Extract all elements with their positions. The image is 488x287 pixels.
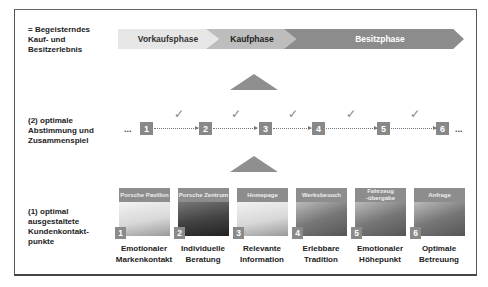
- touchpoint-card-3: Homepage 3: [237, 188, 288, 236]
- check-icon: ✓: [174, 107, 184, 121]
- check-icon: ✓: [231, 107, 241, 121]
- step-4: 4: [312, 122, 325, 135]
- step-6: 6: [436, 122, 449, 135]
- arrow-3-4: [273, 128, 311, 129]
- check-icon: ✓: [410, 107, 420, 121]
- arrow-4-5: [326, 128, 377, 129]
- row-label-experience: = Begeisterndes Kauf- und Besitzerlebnis: [28, 25, 90, 55]
- check-icon: ✓: [346, 107, 356, 121]
- photo-werksbesuch: [296, 202, 347, 236]
- step-3: 3: [259, 122, 272, 135]
- label-line: Abstimmung und: [28, 126, 94, 136]
- card-number: 5: [351, 227, 362, 239]
- card-number: 1: [115, 227, 126, 239]
- arrow-5-6: [391, 128, 436, 129]
- arrow-2-3: [213, 128, 257, 129]
- step-5: 5: [377, 122, 390, 135]
- row-label-touchpoints: (1) optimal ausgestaltete Kundenkontakt-…: [28, 207, 89, 247]
- touchpoint-card-4: Werksbesuch 4: [296, 188, 347, 236]
- label-line: ausgestaltete: [28, 217, 89, 227]
- phase-label: Vorkaufsphase: [138, 34, 198, 44]
- photo-zentrum: [178, 202, 229, 236]
- card-title: Werksbesuch: [296, 188, 347, 202]
- phase-kauf: Kaufphase: [206, 29, 298, 49]
- label-line: Zusammenspiel: [28, 136, 94, 146]
- phase-label: Besitzphase: [343, 34, 405, 44]
- label-line: = Begeisterndes: [28, 25, 90, 35]
- photo-anfrage: [414, 202, 465, 236]
- card-number: 4: [292, 227, 303, 239]
- ellipsis-leading: ...: [124, 124, 132, 134]
- row-label-coordination: (2) optimale Abstimmung und Zusammenspie…: [28, 116, 94, 146]
- caption-line: Optimale: [404, 243, 474, 254]
- card-title: Fahrzeug -übergabe: [355, 188, 406, 202]
- touchpoint-card-1: Porsche Pavillon 1: [119, 188, 170, 236]
- card-number: 6: [410, 227, 421, 239]
- phase-besitz: Besitzphase: [284, 29, 464, 49]
- card-number: 2: [174, 227, 185, 239]
- phase-vorkauf: Vorkaufsphase: [118, 29, 218, 49]
- caption-line: Betreuung: [404, 254, 474, 265]
- label-line: Besitzerlebnis: [28, 45, 90, 55]
- label-line: (2) optimale: [28, 116, 94, 126]
- card-title: Anfrage: [414, 188, 465, 202]
- photo-pavilion: [119, 202, 170, 236]
- card-title: Porsche Pavillon: [119, 188, 170, 202]
- phase-label: Kaufphase: [230, 34, 273, 44]
- label-line: punkte: [28, 237, 89, 247]
- arrow-1-2: [154, 128, 198, 129]
- caption-6: Optimale Betreuung: [404, 243, 474, 265]
- card-title: Porsche Zentrum: [178, 188, 229, 202]
- label-line: (1) optimal: [28, 207, 89, 217]
- check-icon: ✓: [288, 107, 298, 121]
- card-number: 3: [233, 227, 244, 239]
- step-2: 2: [199, 122, 212, 135]
- card-title: Homepage: [237, 188, 288, 202]
- label-line: Kauf- und: [28, 35, 90, 45]
- photo-homepage: [237, 202, 288, 236]
- photo-fahrzeuguebergabe: [355, 202, 406, 236]
- step-1: 1: [140, 122, 153, 135]
- ellipsis-trailing: ...: [455, 124, 463, 134]
- touchpoint-card-2: Porsche Zentrum 2: [178, 188, 229, 236]
- label-line: Kundenkontakt-: [28, 227, 89, 237]
- touchpoint-card-6: Anfrage 6: [414, 188, 465, 236]
- touchpoint-card-5: Fahrzeug -übergabe 5: [355, 188, 406, 236]
